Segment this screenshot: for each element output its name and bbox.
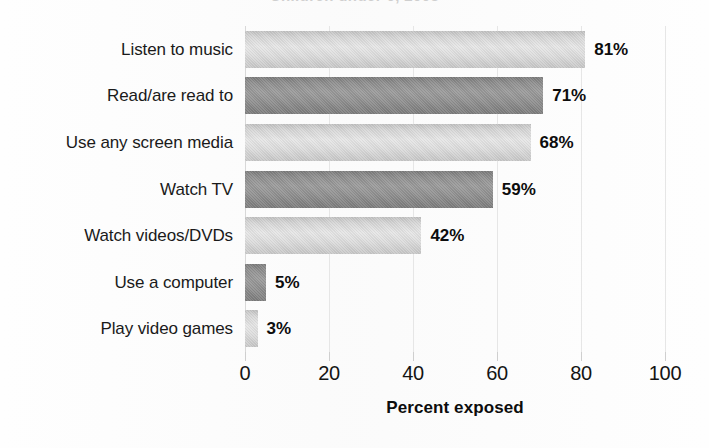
bar-row: Watch videos/DVDs42% xyxy=(245,217,665,254)
bar xyxy=(245,217,421,254)
x-axis-title: Percent exposed xyxy=(245,398,665,418)
bar-value-label: 42% xyxy=(421,217,464,254)
x-tick-label-40: 40 xyxy=(402,362,424,385)
bar-row: Use a computer5% xyxy=(245,264,665,301)
x-tick-mark-20 xyxy=(329,352,330,361)
bar-row: Listen to music81% xyxy=(245,31,665,68)
category-label: Read/are read to xyxy=(15,77,245,114)
bar-value-label: 3% xyxy=(258,310,292,347)
x-tick-label-100: 100 xyxy=(649,362,681,385)
gridline-100 xyxy=(665,26,666,352)
bar-value-label: 81% xyxy=(585,31,628,68)
category-label: Use any screen media xyxy=(15,124,245,161)
bar-value-label: 5% xyxy=(266,264,300,301)
cut-off-title-fragment: Children under 6, 2003 xyxy=(0,0,709,9)
bar xyxy=(245,310,258,347)
bar xyxy=(245,264,266,301)
x-tick-mark-100 xyxy=(665,352,666,361)
bar-value-label: 68% xyxy=(531,124,574,161)
x-tick-label-60: 60 xyxy=(486,362,508,385)
category-label: Play video games xyxy=(15,310,245,347)
x-tick-label-20: 20 xyxy=(318,362,340,385)
bar-row: Play video games3% xyxy=(245,310,665,347)
category-label: Use a computer xyxy=(15,264,245,301)
bar-chart-figure: Children under 6, 2003 Listen to music81… xyxy=(0,0,709,448)
bar-value-label: 71% xyxy=(543,77,586,114)
x-tick-mark-0 xyxy=(245,352,246,361)
category-label: Listen to music xyxy=(15,31,245,68)
x-tick-label-80: 80 xyxy=(570,362,592,385)
bar-row: Read/are read to71% xyxy=(245,77,665,114)
x-tick-mark-40 xyxy=(413,352,414,361)
bar xyxy=(245,171,493,208)
cut-off-title-text: Children under 6, 2003 xyxy=(0,0,709,4)
bar-row: Use any screen media68% xyxy=(245,124,665,161)
plot-area: Listen to music81%Read/are read to71%Use… xyxy=(245,26,665,352)
bar xyxy=(245,31,585,68)
x-axis-tick-labels: 020406080100 xyxy=(245,362,665,388)
category-label: Watch videos/DVDs xyxy=(15,217,245,254)
x-tick-mark-80 xyxy=(581,352,582,361)
bar xyxy=(245,124,531,161)
bar-row: Watch TV59% xyxy=(245,171,665,208)
x-tick-label-0: 0 xyxy=(240,362,251,385)
bar-value-label: 59% xyxy=(493,171,536,208)
x-tick-mark-60 xyxy=(497,352,498,361)
category-label: Watch TV xyxy=(15,171,245,208)
bar xyxy=(245,77,543,114)
